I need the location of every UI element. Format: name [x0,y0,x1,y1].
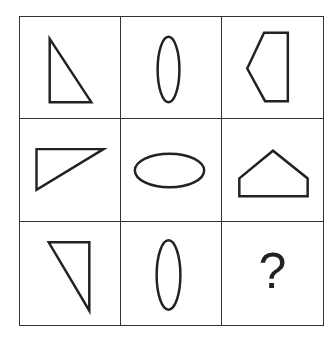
right-triangle-icon [20,222,120,325]
puzzle-grid: ? [19,16,324,326]
cell-r2-c3 [222,119,323,222]
vertical-ellipse-icon [121,17,221,118]
right-triangle-icon [20,17,120,118]
vertical-ellipse-icon [121,222,221,325]
cell-r1-c3 [222,17,323,119]
right-triangle-icon [20,119,120,221]
cell-r3-c1 [20,222,121,325]
cell-r2-c2 [121,119,222,222]
cell-r3-c2 [121,222,222,325]
cell-r3-c3-answer: ? [222,222,323,325]
pentagon-up-icon [222,119,323,221]
horizontal-ellipse-icon [121,119,221,221]
question-mark: ? [222,242,323,300]
pentagon-left-icon [222,17,323,118]
cell-r2-c1 [20,119,121,222]
cell-r1-c2 [121,17,222,119]
cell-r1-c1 [20,17,121,119]
